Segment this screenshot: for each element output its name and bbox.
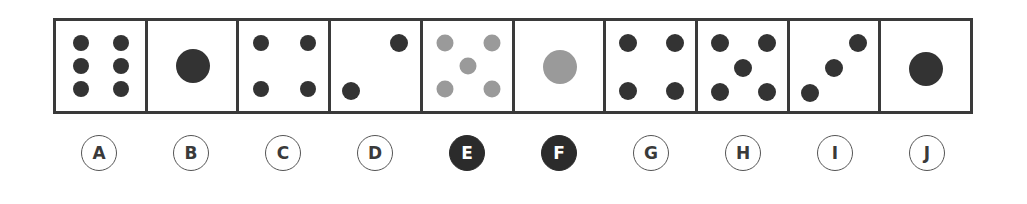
dot-icon <box>711 34 729 52</box>
dot-icon <box>73 58 89 74</box>
option-label-a[interactable]: A <box>81 135 117 171</box>
option-label-b[interactable]: B <box>173 135 209 171</box>
dot-icon <box>849 34 867 52</box>
dot-icon <box>801 84 819 102</box>
option-cell-g[interactable] <box>606 21 698 111</box>
dot-icon <box>483 35 500 52</box>
option-label-h[interactable]: H <box>725 135 761 171</box>
option-label-g[interactable]: G <box>633 135 669 171</box>
option-label-j[interactable]: J <box>909 135 945 171</box>
dot-icon <box>253 81 269 97</box>
dot-icon <box>73 35 89 51</box>
dot-icon <box>300 35 316 51</box>
option-cell-b[interactable] <box>148 21 240 111</box>
dot-icon <box>483 81 500 98</box>
dot-icon <box>300 81 316 97</box>
dice-options-strip <box>53 18 973 114</box>
dot-icon <box>342 82 360 100</box>
option-label-f[interactable]: F <box>541 135 577 171</box>
dot-icon <box>73 81 89 97</box>
dot-icon <box>436 35 453 52</box>
dot-icon <box>113 58 129 74</box>
dot-icon <box>253 35 269 51</box>
option-cell-f[interactable] <box>515 21 607 111</box>
dot-icon <box>543 50 577 84</box>
option-cell-i[interactable] <box>790 21 882 111</box>
option-cell-h[interactable] <box>698 21 790 111</box>
option-label-c[interactable]: C <box>265 135 301 171</box>
option-cell-j[interactable] <box>881 21 970 111</box>
dot-icon <box>436 81 453 98</box>
dot-icon <box>734 59 752 77</box>
dot-icon <box>390 34 408 52</box>
dot-icon <box>758 83 776 101</box>
dot-icon <box>176 49 210 83</box>
dot-icon <box>711 83 729 101</box>
option-label-d[interactable]: D <box>357 135 393 171</box>
option-labels: ABCDEFGHIJ <box>53 133 973 173</box>
dot-icon <box>459 58 476 75</box>
option-cell-d[interactable] <box>331 21 423 111</box>
option-cell-a[interactable] <box>56 21 148 111</box>
dot-icon <box>666 82 684 100</box>
dot-icon <box>113 35 129 51</box>
dot-icon <box>666 34 684 52</box>
dot-icon <box>825 59 843 77</box>
dot-icon <box>758 34 776 52</box>
dot-icon <box>619 34 637 52</box>
dot-icon <box>619 82 637 100</box>
dot-icon <box>909 52 943 86</box>
option-label-i[interactable]: I <box>817 135 853 171</box>
dot-icon <box>113 81 129 97</box>
option-cell-e[interactable] <box>423 21 515 111</box>
option-cell-c[interactable] <box>239 21 331 111</box>
option-label-e[interactable]: E <box>449 135 485 171</box>
